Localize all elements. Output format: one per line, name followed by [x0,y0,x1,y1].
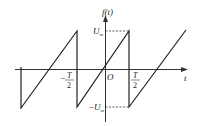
x-axis-label: t [184,73,187,83]
half-period-num: T [133,71,138,80]
y-axis-label: f(t) [102,7,113,17]
neg-half-period-sign: − [60,73,65,83]
neg-um-label: −Um [88,102,105,113]
diagram-canvas: f(t) t O Um −Um − T 2 T 2 [0,0,203,126]
half-period-den: 2 [133,81,137,90]
t-axis-arrow-icon [181,67,188,72]
neg-half-period-num: T [67,71,72,80]
neg-half-period-den: 2 [67,81,71,90]
origin-label: O [107,72,114,82]
sawtooth-diagram: f(t) t O Um −Um − T 2 T 2 [0,0,203,126]
um-label: Um [93,26,104,37]
